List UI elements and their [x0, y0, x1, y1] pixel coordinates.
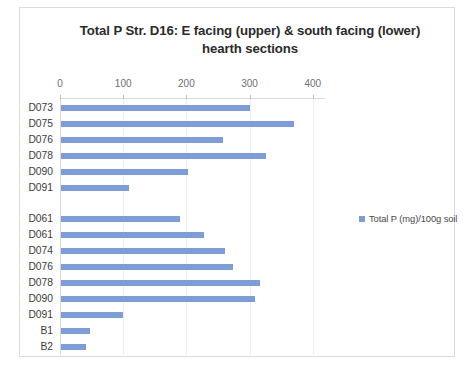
chart-row: D076: [60, 262, 325, 278]
x-tick-label-300: 300: [241, 78, 258, 89]
category-label: D090: [28, 294, 53, 304]
chart-row: D061: [60, 230, 325, 246]
bar-D061-8[interactable]: [61, 232, 204, 238]
bar-D076-10[interactable]: [61, 264, 233, 270]
chart-row: D061: [60, 214, 325, 230]
x-tick-mark-100: [123, 95, 124, 99]
legend-label: Total P (mg)/100g soil: [369, 213, 457, 224]
bar-B2-15[interactable]: [61, 344, 86, 350]
bar-D090-4[interactable]: [61, 169, 188, 175]
category-label: D091: [28, 183, 53, 193]
x-tick-label-200: 200: [178, 78, 195, 89]
chart-row: D075: [60, 119, 325, 135]
category-label: D061: [28, 230, 53, 240]
bar-D090-12[interactable]: [61, 296, 255, 302]
x-tick-mark-300: [250, 95, 251, 99]
x-tick-mark-400: [313, 95, 314, 99]
x-tick-label-0: 0: [57, 78, 63, 89]
x-tick-mark-200: [186, 95, 187, 99]
chart-row: D090: [60, 167, 325, 183]
chart-row: D091: [60, 183, 325, 199]
plot-area: D073D075D076D078D090D091D061D061D074D076…: [60, 99, 325, 355]
category-label: B1: [40, 326, 53, 336]
x-tick-label-400: 400: [304, 78, 321, 89]
chart-row: D073: [60, 103, 325, 119]
chart-row: [60, 198, 325, 214]
chart-row: D078: [60, 278, 325, 294]
x-tick-mark-0: [60, 95, 61, 99]
bar-D091-13[interactable]: [61, 312, 123, 318]
chart-title: Total P Str. D16: E facing (upper) & sou…: [50, 22, 450, 58]
chart-row: B1: [60, 326, 325, 342]
chart-row: B2: [60, 342, 325, 358]
category-label: D073: [28, 103, 53, 113]
category-label: D078: [28, 151, 53, 161]
category-label: D090: [28, 167, 53, 177]
chart-row: D090: [60, 294, 325, 310]
chart-row: D074: [60, 246, 325, 262]
bar-B1-14[interactable]: [61, 328, 90, 334]
category-label: D078: [28, 278, 53, 288]
chart-legend: Total P (mg)/100g soil: [359, 213, 457, 224]
chart-title-line-1: Total P Str. D16: E facing (upper) & sou…: [50, 22, 450, 40]
bar-D076-2[interactable]: [61, 137, 223, 143]
bar-D061-7[interactable]: [61, 216, 180, 222]
x-axis-line: [60, 98, 325, 99]
chart-row: D078: [60, 151, 325, 167]
bar-D073-0[interactable]: [61, 105, 250, 111]
chart-row: D091: [60, 310, 325, 326]
x-axis-tick-labels: 0100200300400: [0, 78, 463, 92]
category-label: D074: [28, 246, 53, 256]
bar-D075-1[interactable]: [61, 121, 294, 127]
bar-D091-5[interactable]: [61, 185, 129, 191]
category-label: D075: [28, 119, 53, 129]
category-label: D076: [28, 262, 53, 272]
chart-title-line-2: hearth sections: [50, 40, 450, 58]
category-label: B2: [40, 342, 53, 352]
bar-D078-3[interactable]: [61, 153, 266, 159]
x-tick-label-100: 100: [115, 78, 132, 89]
bar-D078-11[interactable]: [61, 280, 260, 286]
category-label: D061: [28, 214, 53, 224]
bar-D074-9[interactable]: [61, 248, 225, 254]
chart-row: D076: [60, 135, 325, 151]
category-label: D091: [28, 310, 53, 320]
legend-swatch-icon: [359, 216, 365, 222]
category-label: D076: [28, 135, 53, 145]
